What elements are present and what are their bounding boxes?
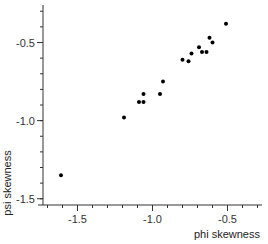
data-point	[181, 58, 185, 62]
data-point	[190, 51, 194, 55]
plot-area	[59, 22, 228, 178]
y-tick-label: -1.5	[16, 193, 35, 205]
data-point	[158, 92, 162, 96]
axes: -1.5-1.0-0.5 -1.5-1.0-0.5	[16, 5, 262, 225]
data-point	[59, 173, 63, 177]
x-tick-label: -1.5	[68, 213, 87, 225]
data-point	[197, 45, 201, 49]
data-point	[187, 59, 191, 63]
data-point	[211, 41, 215, 45]
y-axis-ticks: -1.5-1.0-0.5	[16, 11, 43, 205]
data-point	[142, 100, 146, 104]
data-point	[161, 80, 165, 84]
data-point	[224, 22, 228, 26]
data-point	[122, 116, 126, 120]
data-point	[205, 50, 209, 54]
x-tick-label: -0.5	[218, 213, 237, 225]
x-tick-label: -1.0	[143, 213, 162, 225]
x-axis-label: phi skewness	[194, 228, 261, 240]
scatter-chart: -1.5-1.0-0.5 -1.5-1.0-0.5 phi skewness p…	[0, 0, 268, 244]
data-point	[142, 92, 146, 96]
data-point	[137, 100, 141, 104]
y-tick-label: -1.0	[16, 115, 35, 127]
y-axis-label: psi skewness	[1, 150, 13, 216]
y-tick-label: -0.5	[16, 37, 35, 49]
data-point	[208, 36, 212, 40]
x-axis-ticks: -1.5-1.0-0.5	[48, 205, 258, 225]
data-point	[200, 50, 204, 54]
